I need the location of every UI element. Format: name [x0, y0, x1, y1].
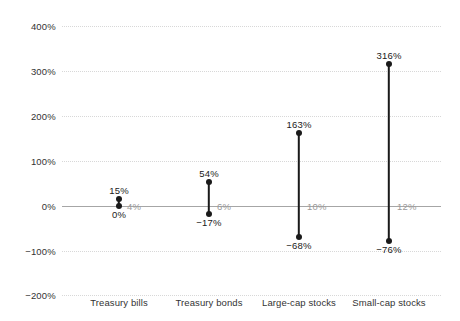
gridline-300 [62, 71, 441, 72]
ytick-label-neg200: −200% [25, 290, 56, 301]
category-label-treasury-bonds: Treasury bonds [175, 297, 242, 308]
plot-area: 400% 300% 200% 100% 0% −100% −200% 15% 0… [0, 0, 460, 321]
gridline-200 [62, 116, 441, 117]
range-cap-high-treasury-bills [116, 196, 122, 202]
range-chart: 400% 300% 200% 100% 0% −100% −200% 15% 0… [0, 0, 460, 321]
ytick-label-0: 0% [42, 201, 56, 212]
range-cap-high-small-cap-stocks [386, 61, 392, 67]
value-label-low-treasury-bills: 0% [112, 209, 126, 220]
range-bar-small-cap-stocks [388, 64, 390, 241]
gridline-neg200 [62, 295, 441, 296]
value-label-low-treasury-bonds: −17% [196, 217, 221, 228]
category-label-small-cap-stocks: Small-cap stocks [352, 297, 425, 308]
ytick-label-100: 100% [31, 156, 56, 167]
value-label-high-treasury-bills: 15% [109, 185, 129, 196]
mean-label-large-cap-stocks: 10% [307, 201, 327, 212]
value-label-low-large-cap-stocks: −68% [286, 240, 311, 251]
mean-label-small-cap-stocks: 12% [397, 201, 417, 212]
ytick-label-200: 200% [31, 111, 56, 122]
value-label-high-treasury-bonds: 54% [199, 168, 219, 179]
ytick-label-400: 400% [31, 21, 56, 32]
range-cap-high-large-cap-stocks [296, 130, 302, 136]
category-label-treasury-bills: Treasury bills [90, 297, 148, 308]
mean-label-treasury-bonds: 6% [217, 201, 231, 212]
mean-label-treasury-bills: 4% [127, 201, 141, 212]
gridline-400 [62, 26, 441, 27]
value-label-high-large-cap-stocks: 163% [286, 119, 311, 130]
range-cap-high-treasury-bonds [206, 179, 212, 185]
ytick-label-neg100: −100% [25, 246, 56, 257]
range-bar-treasury-bonds [208, 182, 210, 214]
gridline-100 [62, 161, 441, 162]
value-label-low-small-cap-stocks: −76% [376, 244, 401, 255]
category-label-large-cap-stocks: Large-cap stocks [262, 297, 336, 308]
ytick-label-300: 300% [31, 66, 56, 77]
range-bar-large-cap-stocks [298, 133, 300, 237]
value-label-high-small-cap-stocks: 316% [376, 50, 401, 61]
